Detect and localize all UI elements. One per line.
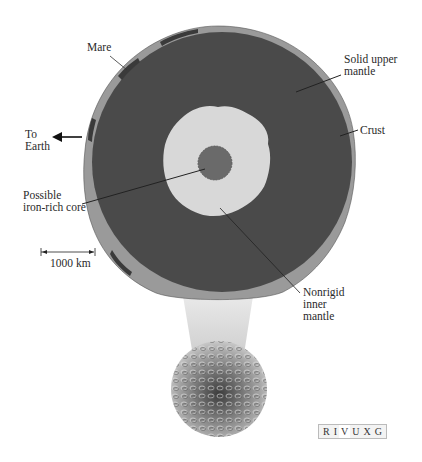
- leader-mare: [110, 56, 127, 70]
- iron-rich-core: [198, 146, 232, 180]
- label-iron-rich-core: Possible iron-rich core: [23, 189, 86, 213]
- label-scale: 1000 km: [50, 257, 91, 269]
- wavelength-v: V: [339, 425, 350, 438]
- wavelength-i: I: [332, 425, 339, 438]
- label-nonrigid-inner-mantle: Nonrigid inner mantle: [303, 286, 345, 322]
- label-solid-upper-mantle: Solid upper mantle: [344, 53, 397, 77]
- wavelength-u: U: [350, 425, 361, 438]
- wavelength-x: X: [361, 425, 372, 438]
- label-to-earth: To Earth: [25, 128, 50, 152]
- to-earth-arrow: [52, 132, 82, 142]
- wavelength-g: G: [373, 425, 384, 438]
- wavelength-r: R: [321, 425, 332, 438]
- moon-cross-section: [84, 26, 356, 300]
- scale-bar: [41, 248, 95, 256]
- wavelength-bar: R I V U X G: [318, 424, 387, 439]
- label-crust: Crust: [360, 124, 385, 136]
- moon-photo: [171, 341, 267, 437]
- label-mare: Mare: [87, 41, 111, 53]
